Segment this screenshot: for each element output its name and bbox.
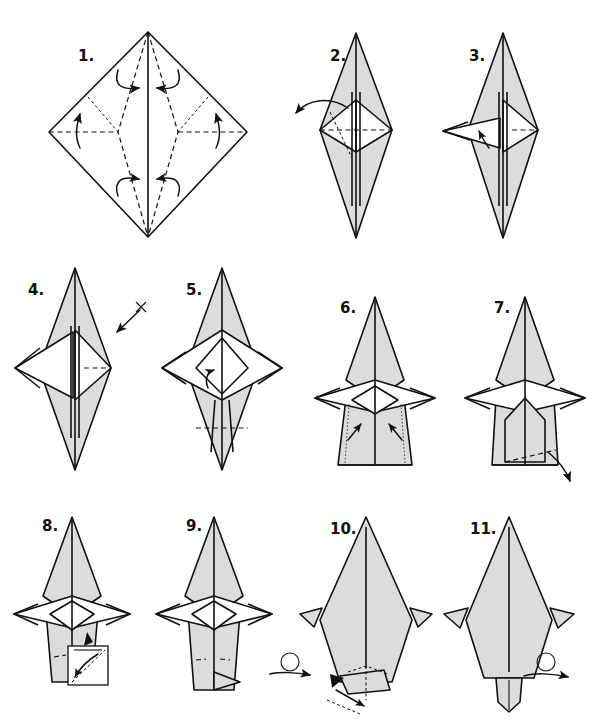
step-11-wing-left — [444, 608, 468, 628]
step-6-label: 6. — [340, 299, 356, 317]
step-9-label: 9. — [186, 517, 202, 535]
step-4-label: 4. — [28, 281, 44, 299]
step-4-figure: 4. — [15, 268, 146, 470]
step-10-wing-right — [410, 608, 432, 627]
step-8-label: 8. — [42, 517, 58, 535]
step-5-label: 5. — [186, 281, 202, 299]
step-4-repeat-x-marker — [136, 302, 146, 312]
step-10-arrow-guide — [327, 700, 360, 714]
step-11-figure: 11. — [444, 517, 574, 712]
step-7-figure: 7. — [465, 297, 585, 481]
step-11-label: 11. — [470, 520, 497, 538]
step-3-figure: 3. — [443, 33, 538, 238]
step-5-figure: 5. — [162, 268, 282, 470]
step-10-label: 10. — [330, 520, 357, 538]
step-9-figure: 9. — [156, 517, 310, 690]
step-10-figure: 10. — [300, 517, 432, 714]
step-1-label: 1. — [78, 47, 94, 65]
step-7-label: 7. — [494, 299, 510, 317]
step-6-figure: 6. — [315, 297, 435, 465]
step-2-label: 2. — [330, 47, 346, 65]
step-10-wing-left — [300, 608, 322, 627]
step-4-repeat-arrow — [117, 310, 140, 332]
step-2-figure: 2. — [296, 33, 392, 238]
diagram-canvas: 1. 2. 3. — [0, 0, 595, 720]
step-4-wing-left — [15, 332, 73, 398]
origami-diagram-sheet: 1. 2. 3. — [0, 0, 595, 720]
step-8-detail-inset-box — [68, 646, 108, 685]
step-8-figure: 8. — [14, 517, 130, 685]
step-11-wing-right — [550, 608, 574, 628]
step-1-figure: 1. — [49, 32, 247, 237]
step-9-turn-over-symbol — [270, 653, 310, 675]
step-3-label: 3. — [469, 47, 485, 65]
